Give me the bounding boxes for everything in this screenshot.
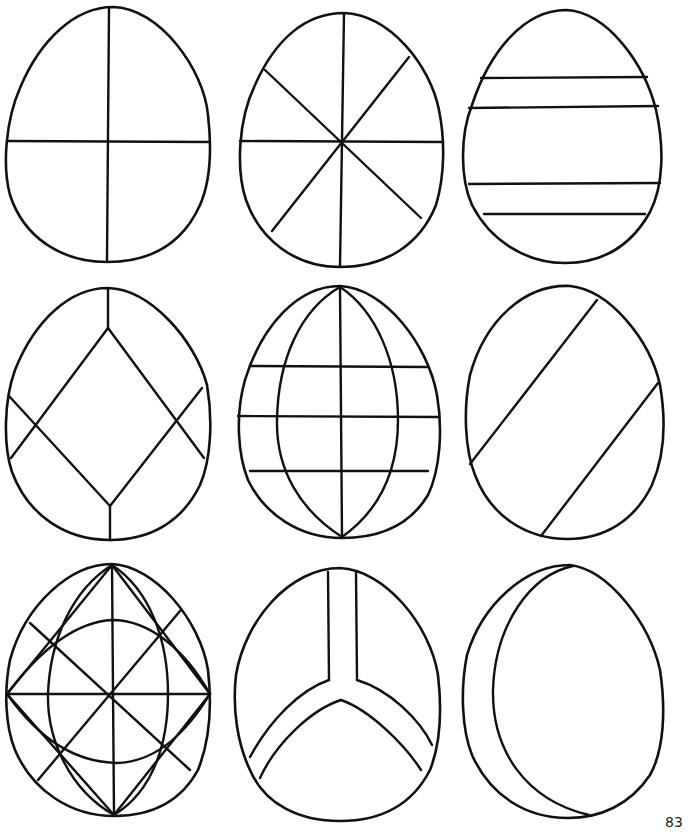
egg-meridians-latitudes xyxy=(238,286,440,538)
egg-cross-quartered xyxy=(6,7,210,262)
egg-diamond-crossing-diagonals xyxy=(6,288,210,540)
page-number: 83 xyxy=(665,814,683,830)
egg-diagonal-band xyxy=(466,286,664,539)
egg-two-horizontal-bands xyxy=(463,10,661,263)
egg-eight-segment-star xyxy=(240,13,443,267)
egg-star-lens-arcs xyxy=(6,564,210,816)
egg-pattern-sheet xyxy=(0,0,690,834)
egg-crescent-side-band xyxy=(463,565,663,818)
egg-y-shaped-band xyxy=(235,568,440,821)
